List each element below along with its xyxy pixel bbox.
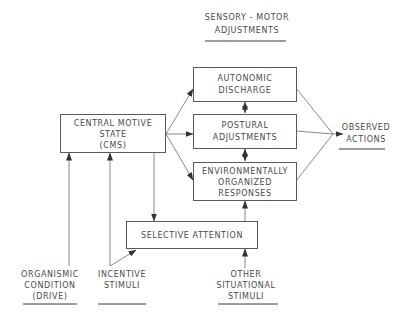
cms-line1: CENTRAL MOTIVE	[74, 119, 153, 128]
input-organismic-condition: ORGANISMIC CONDITION (DRIVE)	[21, 270, 79, 304]
output-observed-actions: OBSERVED ACTIONS	[339, 123, 390, 149]
node-selective-attention: SELECTIVE ATTENTION	[127, 222, 258, 249]
organismic-line2: CONDITION	[24, 281, 75, 290]
input-other-situational-stimuli: OTHER SITUATIONAL STIMULI	[216, 270, 278, 304]
postural-line1: POSTURAL	[222, 121, 269, 130]
attention-line1: SELECTIVE ATTENTION	[141, 231, 243, 240]
arrow-incentive-to-attention	[110, 250, 136, 266]
environmental-line1: ENVIRONMENTALLY	[202, 167, 288, 176]
organismic-line3: (DRIVE)	[32, 292, 67, 301]
environmental-line3: RESPONSES	[218, 189, 271, 198]
observed-line2: ACTIONS	[346, 135, 386, 144]
arrow-cms-to-environmental	[166, 134, 193, 180]
input-incentive-stimuli: INCENTIVE STIMULI	[98, 270, 146, 304]
postural-line2: ADJUSTMENTS	[213, 133, 277, 142]
motivation-diagram: SENSORY - MOTOR ADJUSTMENTS CENTRAL MOTI…	[0, 0, 403, 321]
node-autonomic-discharge: AUTONOMIC DISCHARGE	[194, 68, 297, 102]
header-label: SENSORY - MOTOR ADJUSTMENTS	[205, 13, 289, 41]
other-line3: STIMULI	[228, 292, 264, 301]
node-environmentally-organized-responses: ENVIRONMENTALLY ORGANIZED RESPONSES	[194, 163, 297, 201]
organismic-line1: ORGANISMIC	[21, 270, 79, 279]
other-line1: OTHER	[231, 270, 262, 279]
header-line1: SENSORY - MOTOR	[205, 13, 289, 22]
incentive-line2: STIMULI	[104, 281, 140, 290]
cms-line2: STATE	[99, 130, 126, 139]
environmental-line2: ORGANIZED	[218, 178, 272, 187]
incentive-line1: INCENTIVE	[98, 270, 146, 279]
header-line2: ADJUSTMENTS	[215, 26, 279, 35]
node-postural-adjustments: POSTURAL ADJUSTMENTS	[194, 115, 297, 149]
line-environmental-to-observed	[296, 134, 333, 181]
autonomic-line2: DISCHARGE	[219, 86, 272, 95]
autonomic-line1: AUTONOMIC	[217, 74, 272, 83]
line-postural-to-observed	[296, 131, 333, 134]
other-line2: SITUATIONAL	[216, 281, 275, 290]
arrow-cms-to-autonomic	[166, 89, 193, 134]
line-autonomic-to-observed	[296, 88, 333, 134]
cms-line3: (CMS)	[100, 141, 127, 150]
observed-line1: OBSERVED	[342, 123, 390, 132]
node-central-motive-state: CENTRAL MOTIVE STATE (CMS)	[61, 115, 166, 153]
